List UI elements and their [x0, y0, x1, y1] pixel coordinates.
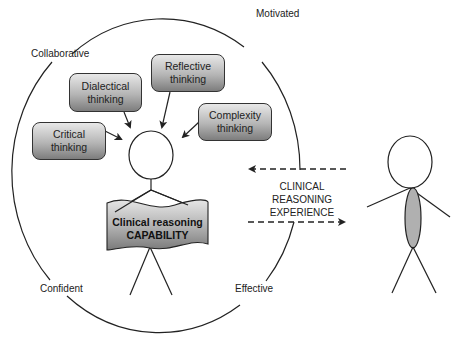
box-reflective-thinking: Reflectivethinking	[151, 54, 225, 92]
box-line: Complexity	[209, 109, 261, 121]
capability-banner: Clinical reasoning CAPABILITY	[107, 216, 208, 242]
arm-overlay	[151, 190, 188, 205]
box-line: Dialectical	[82, 80, 130, 92]
box-critical-thinking: Criticalthinking	[32, 122, 106, 160]
box-complexity-thinking: Complexitythinking	[198, 103, 272, 141]
label-confident: Confident	[40, 283, 83, 294]
label-motivated: Motivated	[256, 8, 299, 19]
box-line: thinking	[217, 122, 253, 134]
experience-line3: EXPERIENCE	[270, 207, 334, 218]
box-dialectical-thinking: Dialecticalthinking	[69, 73, 142, 112]
experience-label: CLINICAL REASONING EXPERIENCE	[262, 180, 342, 219]
box-line: Reflective	[165, 60, 211, 72]
experience-line1: CLINICAL	[279, 181, 324, 192]
label-effective: Effective	[235, 283, 273, 294]
label-collaborative: Collaborative	[31, 48, 89, 59]
novice-figure	[367, 136, 450, 293]
box-line: thinking	[51, 141, 87, 153]
capability-line1: Clinical reasoning	[112, 216, 202, 228]
capability-line2: CAPABILITY	[126, 229, 188, 241]
box-line: Critical	[53, 128, 85, 140]
box-line: thinking	[170, 73, 206, 85]
experience-line2: REASONING	[272, 194, 332, 205]
box-line: thinking	[87, 93, 123, 105]
